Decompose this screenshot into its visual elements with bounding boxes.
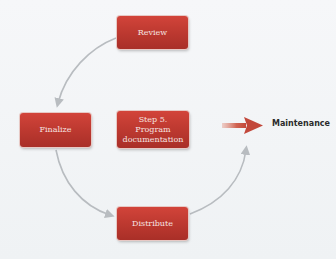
node-distribute[interactable]: Distribute (117, 207, 188, 240)
node-program-documentation[interactable]: Step 5. Program documentation (117, 111, 189, 148)
node-program-line-3: documentation (123, 135, 184, 145)
node-distribute-label: Distribute (132, 219, 173, 229)
diagram-canvas: Review Finalize Step 5. Program document… (0, 0, 336, 259)
node-program-line-1: Step 5. (123, 115, 184, 125)
arrow-review-to-finalize (58, 38, 116, 103)
node-program-line-2: Program (123, 125, 184, 135)
node-finalize-label: Finalize (39, 125, 71, 135)
arrow-distribute-to-cycle (190, 150, 246, 214)
node-finalize[interactable]: Finalize (20, 113, 91, 147)
block-arrow-to-maintenance (222, 117, 263, 134)
maintenance-label: Maintenance (272, 119, 330, 128)
arrow-finalize-to-distribute (56, 150, 110, 215)
node-review[interactable]: Review (117, 16, 188, 49)
node-review-label: Review (138, 28, 167, 38)
